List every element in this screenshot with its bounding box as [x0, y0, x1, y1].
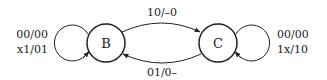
- self-loop-b: 00/00 x1/01: [16, 25, 89, 61]
- self-loop-b-arrowhead: [83, 52, 89, 58]
- self-loop-c-arc: [236, 25, 270, 61]
- self-loop-c: 00/00 1x/10: [235, 25, 309, 61]
- transition-b-to-c-label: 10/–0: [147, 6, 177, 19]
- transition-c-to-b-arc: [123, 54, 201, 63]
- self-loop-b-label-1: 00/00: [16, 28, 48, 41]
- self-loop-b-arc: [54, 25, 88, 61]
- state-b-label: B: [101, 36, 111, 51]
- state-c: C: [199, 24, 237, 62]
- self-loop-b-label-2: x1/01: [17, 43, 48, 56]
- transition-b-to-c-arc: [122, 23, 200, 32]
- transition-c-to-b-label: 01/0–: [147, 66, 178, 79]
- state-diagram: 00/00 x1/01 00/00 1x/10 10/–0 01/0– B C: [0, 0, 327, 80]
- self-loop-c-arrowhead: [235, 52, 241, 58]
- state-b: B: [87, 24, 125, 62]
- self-loop-c-label-2: 1x/10: [277, 43, 308, 56]
- transition-b-to-c: 10/–0: [122, 6, 200, 32]
- transition-c-to-b: 01/0–: [123, 54, 201, 79]
- state-c-label: C: [213, 36, 223, 51]
- self-loop-c-label-1: 00/00: [277, 28, 309, 41]
